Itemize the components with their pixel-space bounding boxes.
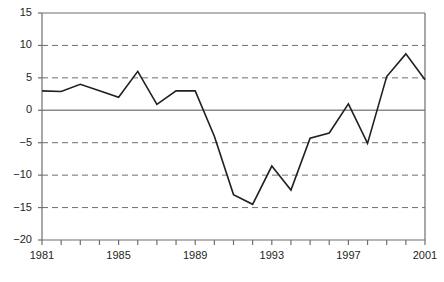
chart-plot-area: [0, 0, 444, 282]
data-line-series-1: [42, 54, 425, 204]
y-axis-tick-label: −10: [2, 169, 32, 180]
x-axis-tick-label: 2001: [405, 250, 444, 261]
y-axis-tick-label: 15: [2, 7, 32, 18]
y-axis-tick-label: 5: [2, 72, 32, 83]
line-chart: 151050−5−10−15−2019811985198919931997200…: [0, 0, 444, 282]
y-axis-tick-label: 0: [2, 104, 32, 115]
y-axis-tick-label: −5: [2, 137, 32, 148]
x-axis-tick-label: 1985: [99, 250, 139, 261]
x-axis-tick-label: 1997: [328, 250, 368, 261]
x-axis-tick-label: 1993: [252, 250, 292, 261]
y-axis-tick-label: −20: [2, 234, 32, 245]
x-axis-tick-label: 1981: [22, 250, 62, 261]
x-axis-tick-label: 1989: [175, 250, 215, 261]
y-axis-tick-label: 10: [2, 39, 32, 50]
y-axis-tick-label: −15: [2, 202, 32, 213]
